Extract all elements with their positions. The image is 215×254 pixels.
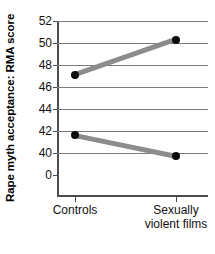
data-point-marker — [172, 152, 180, 160]
gridline — [57, 109, 208, 110]
y-axis-tick-mark — [53, 65, 57, 66]
x-axis-tick-mark — [75, 196, 76, 202]
gridline — [57, 131, 208, 132]
y-axis-tick-mark — [53, 87, 57, 88]
gridline — [57, 21, 208, 22]
y-axis-tick-label: 40 — [22, 147, 52, 159]
y-axis-tick-mark — [53, 175, 57, 176]
chart-figure: Rape myth acceptance: RMA score 52504846… — [0, 0, 215, 254]
y-axis-tick-mark — [53, 131, 57, 132]
gridline — [57, 153, 208, 154]
gridline — [57, 87, 208, 88]
x-axis-tick-mark — [176, 196, 177, 202]
series-line — [74, 133, 176, 159]
y-axis-tick-mark — [53, 43, 57, 44]
gridline — [57, 43, 208, 44]
y-axis-tick-label: 46 — [22, 81, 52, 93]
y-axis-tick-label: 0 — [22, 169, 52, 181]
y-axis-tick-label: 48 — [22, 59, 52, 71]
y-axis-tick-mark — [53, 21, 57, 22]
data-point-marker — [172, 36, 180, 44]
y-axis-title: Rape myth acceptance: RMA score — [2, 2, 18, 202]
gridline — [57, 65, 208, 66]
data-point-marker — [71, 71, 79, 79]
x-axis-spine — [57, 195, 208, 197]
y-axis-tick-mark — [53, 109, 57, 110]
plot-area: 525048464442400 ControlsSexually violent… — [57, 21, 208, 196]
x-axis-tick-label: Controls — [30, 204, 120, 218]
y-axis-tick-label: 44 — [22, 103, 52, 115]
y-axis-tick-label: 50 — [22, 37, 52, 49]
x-axis-tick-label: Sexually violent films — [131, 204, 215, 231]
y-axis-tick-mark — [53, 153, 57, 154]
y-axis-tick-label: 42 — [22, 125, 52, 137]
y-axis-tick-label: 52 — [22, 15, 52, 27]
